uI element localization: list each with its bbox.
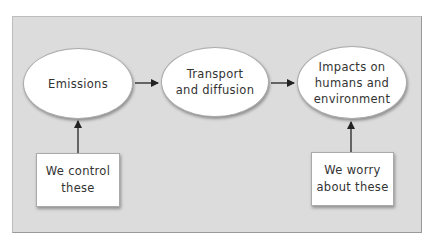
box-we-worry: We worry about these bbox=[311, 152, 394, 206]
node-impacts: Impacts on humans and environment bbox=[297, 46, 407, 119]
box-we-worry-label: We worry about these bbox=[316, 162, 388, 196]
box-we-control-label: We control these bbox=[46, 163, 110, 197]
node-transport: Transport and diffusion bbox=[161, 47, 269, 117]
node-transport-label: Transport and diffusion bbox=[176, 66, 255, 98]
node-emissions: Emissions bbox=[23, 48, 133, 119]
node-impacts-label: Impacts on humans and environment bbox=[314, 59, 391, 107]
box-we-control: We control these bbox=[36, 153, 120, 207]
node-emissions-label: Emissions bbox=[48, 76, 108, 92]
